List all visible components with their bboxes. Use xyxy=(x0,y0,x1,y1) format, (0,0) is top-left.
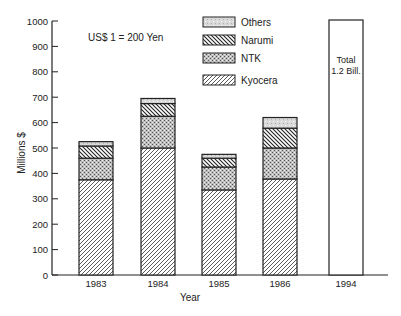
legend-item-others: Others xyxy=(203,17,271,28)
y-tick-label: 900 xyxy=(32,41,48,52)
bar-segment-kyocera xyxy=(79,180,113,275)
bar-1983: 1983 xyxy=(79,142,113,289)
legend-label: NTK xyxy=(241,53,261,64)
total-label: Total xyxy=(336,55,355,65)
x-tick-label: 1984 xyxy=(147,278,168,289)
legend-item-kyocera: Kyocera xyxy=(203,75,278,86)
bar-segment-others xyxy=(79,142,113,146)
x-axis-title: Year xyxy=(180,292,201,303)
y-tick-label: 800 xyxy=(32,66,48,77)
bar-segment-kyocera xyxy=(202,190,236,275)
bar-1994: Total1.2 Bill.1994 xyxy=(329,20,363,289)
total-value-label: 1.2 Bill. xyxy=(331,66,361,76)
x-tick-label: 1985 xyxy=(208,278,229,289)
y-axis-title: Millions $ xyxy=(16,132,27,174)
bar-1986: 1986 xyxy=(263,118,297,289)
y-tick-label: 100 xyxy=(32,244,48,255)
stacked-bar-chart: 01002003004005006007008009001000 1983198… xyxy=(0,0,401,316)
legend-item-ntk: NTK xyxy=(203,53,261,64)
bar-segment-ntk xyxy=(79,158,113,180)
y-tick-label: 700 xyxy=(32,92,48,103)
y-tick-label: 300 xyxy=(32,193,48,204)
y-tick-label: 400 xyxy=(32,168,48,179)
bar-segment-others xyxy=(263,118,297,129)
x-tick-label: 1986 xyxy=(269,278,290,289)
exchange-rate-note: US$ 1 = 200 Yen xyxy=(88,32,163,43)
y-tick-label: 200 xyxy=(32,219,48,230)
bar-segment-others xyxy=(141,98,175,103)
bar-segment-narumi xyxy=(141,104,175,117)
y-tick-label: 0 xyxy=(43,270,48,281)
bar-segment-narumi xyxy=(79,146,113,158)
legend-swatch xyxy=(203,53,235,63)
bar-segment-ntk xyxy=(202,167,236,190)
bar-segment-ntk xyxy=(141,116,175,148)
bar-segment-narumi xyxy=(202,158,236,167)
bar-segment-ntk xyxy=(263,148,297,179)
bar-1985: 1985 xyxy=(202,154,236,289)
legend-swatch xyxy=(203,17,235,27)
y-tick-label: 600 xyxy=(32,117,48,128)
bar-1984: 1984 xyxy=(141,98,175,289)
bar-segment-kyocera xyxy=(263,179,297,275)
bar-segment-narumi xyxy=(263,128,297,148)
legend: OthersNarumiNTKKyocera xyxy=(203,17,278,86)
bar-segment-kyocera xyxy=(141,148,175,275)
y-axis: 01002003004005006007008009001000 xyxy=(27,16,58,281)
x-tick-label: 1983 xyxy=(85,278,106,289)
legend-label: Others xyxy=(241,17,271,28)
bar-segment-others xyxy=(202,154,236,158)
legend-swatch xyxy=(203,75,235,85)
legend-label: Kyocera xyxy=(241,75,278,86)
x-tick-label: 1994 xyxy=(335,278,356,289)
y-tick-label: 500 xyxy=(32,143,48,154)
legend-label: Narumi xyxy=(241,35,273,46)
legend-item-narumi: Narumi xyxy=(203,35,273,46)
y-tick-label: 1000 xyxy=(27,16,48,27)
legend-swatch xyxy=(203,35,235,45)
